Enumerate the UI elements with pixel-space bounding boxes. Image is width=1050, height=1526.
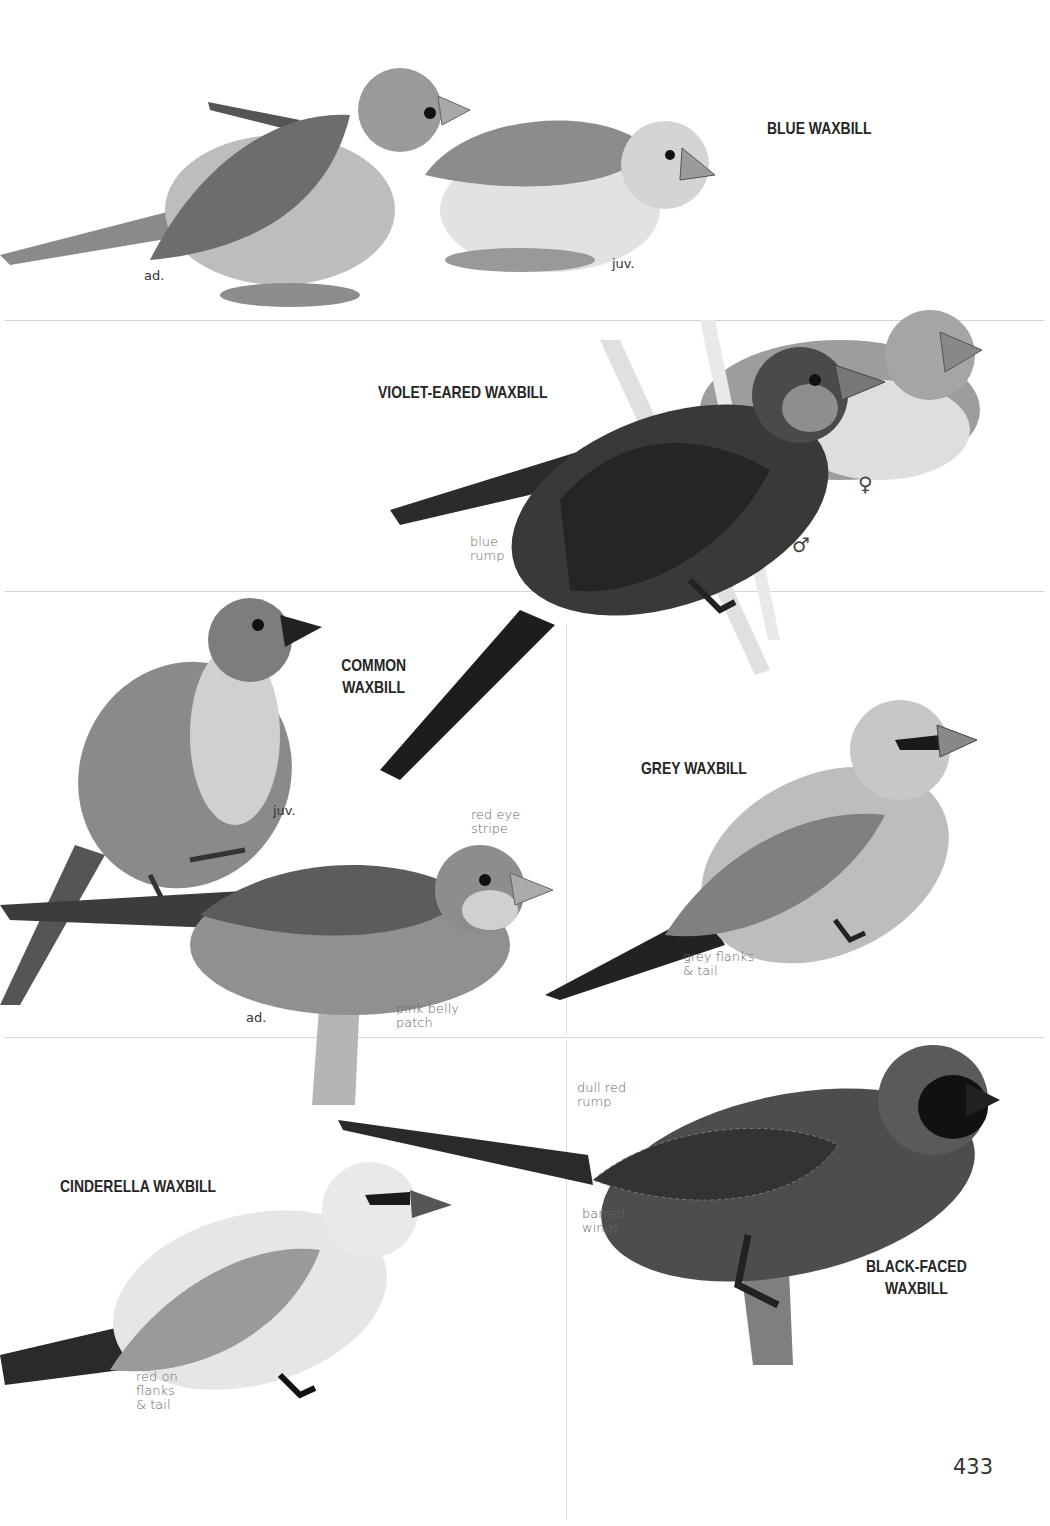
black-faced-waxbill-illustration <box>338 1045 1003 1365</box>
species-title-cinderella-waxbill: CINDERELLA WAXBILL <box>60 1176 216 1198</box>
note-grey-waxbill-grey-flanks-tail: grey flanks & tail <box>683 950 754 978</box>
note-black-faced-barred-wings: barred wings <box>582 1207 625 1235</box>
species-title-black-faced-waxbill-line2: WAXBILL <box>866 1278 967 1300</box>
blue-waxbill-adult-illustration <box>0 40 480 320</box>
note-common-waxbill-pink-belly-patch: pink belly patch <box>396 1002 459 1030</box>
label-common-waxbill-adult: ad. <box>246 1010 266 1025</box>
species-title-common-waxbill: COMMON WAXBILL <box>341 655 406 699</box>
grey-waxbill-illustration <box>545 695 985 1005</box>
note-black-faced-dull-red-rump: dull red rump <box>577 1081 626 1109</box>
label-blue-waxbill-adult: ad. <box>144 268 164 283</box>
female-symbol-icon: ♀ <box>858 472 873 496</box>
note-common-waxbill-red-eye-stripe: red eye stripe <box>471 808 520 836</box>
blue-waxbill-juvenile-illustration <box>410 100 730 280</box>
species-title-violet-eared-waxbill: VIOLET-EARED WAXBILL <box>378 382 548 404</box>
species-title-blue-waxbill: BLUE WAXBILL <box>767 118 872 140</box>
species-title-black-faced-waxbill: BLACK-FACED WAXBILL <box>866 1256 967 1300</box>
species-title-grey-waxbill: GREY WAXBILL <box>641 758 747 780</box>
male-symbol-icon: ♂ <box>792 533 810 557</box>
species-title-black-faced-waxbill-line1: BLACK-FACED <box>866 1256 967 1278</box>
note-violet-eared-blue-rump: blue rump <box>470 535 505 563</box>
label-blue-waxbill-juvenile: juv. <box>612 256 635 271</box>
page-number: 433 <box>953 1455 993 1479</box>
note-cinderella-red-on-flanks-tail: red on flanks & tail <box>136 1370 178 1412</box>
species-title-common-waxbill-line2: WAXBILL <box>341 677 406 699</box>
species-title-common-waxbill-line1: COMMON <box>341 655 406 677</box>
label-common-waxbill-juvenile: juv. <box>273 803 296 818</box>
